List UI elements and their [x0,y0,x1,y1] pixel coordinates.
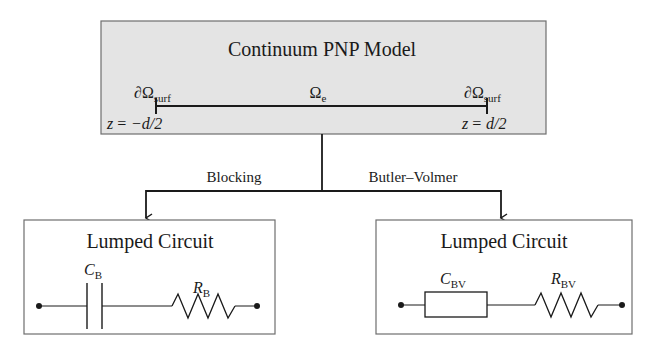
left-circuit-title: Lumped Circuit [86,230,214,253]
blocking-lumped-circuit-box: Lumped Circuit CB RB [24,220,275,334]
right-terminal-dot [619,302,625,308]
butler-volmer-label: Butler–Volmer [369,169,458,185]
right-position-label: z= d/2 [461,115,506,132]
right-circuit-title: Lumped Circuit [440,230,568,253]
continuum-pnp-model-box: Continuum PNP Model ∂Ωsurf Ωe ∂Ωsurf z= … [101,21,546,134]
branch-connectors: Blocking Butler–Volmer [146,134,501,218]
blocking-label: Blocking [207,169,262,185]
pnp-to-circuit-diagram: Continuum PNP Model ∂Ωsurf Ωe ∂Ωsurf z= … [0,0,652,349]
right-terminal-dot [254,303,260,309]
top-box-title: Continuum PNP Model [228,38,417,60]
butler-volmer-lumped-circuit-box: Lumped Circuit CBV RBV [376,220,632,334]
